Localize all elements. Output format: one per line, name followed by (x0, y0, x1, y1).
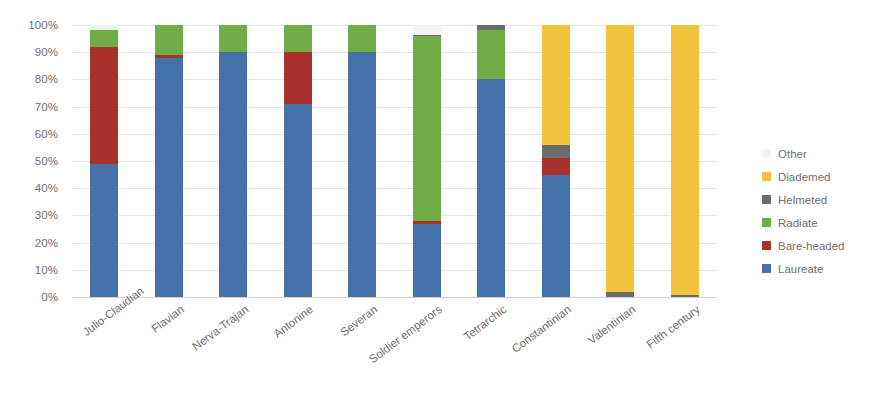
bar-segment[interactable] (155, 58, 183, 297)
bar-stack (155, 25, 183, 297)
legend-item[interactable]: Laureate (762, 257, 874, 280)
legend-label: Other (778, 148, 807, 160)
plot-area (72, 25, 717, 297)
bar-series-container (72, 25, 717, 297)
bar-segment[interactable] (90, 164, 118, 297)
bar-segment[interactable] (413, 221, 441, 224)
y-axis-tick-label: 80% (35, 73, 58, 85)
bar-column[interactable] (201, 25, 266, 297)
legend-swatch-icon (762, 218, 771, 227)
y-axis-tick-label: 50% (35, 155, 58, 167)
y-axis-tick-label: 70% (35, 101, 58, 113)
bar-segment[interactable] (413, 224, 441, 297)
x-axis: Julio-ClaudianFlavianNerva-TrajanAntonin… (72, 297, 717, 396)
bar-segment[interactable] (413, 36, 441, 221)
legend-label: Laureate (778, 263, 823, 275)
bar-segment[interactable] (155, 55, 183, 58)
legend-swatch-icon (762, 195, 771, 204)
bar-segment[interactable] (219, 52, 247, 297)
bar-segment[interactable] (542, 158, 570, 174)
bar-column[interactable] (330, 25, 395, 297)
bar-stack (284, 25, 312, 297)
stacked-bar-chart: 0%10%20%30%40%50%60%70%80%90%100% Julio-… (0, 0, 876, 396)
bar-column[interactable] (395, 25, 460, 297)
legend-label: Radiate (778, 217, 818, 229)
y-axis-tick-label: 100% (28, 19, 58, 31)
bar-segment[interactable] (477, 30, 505, 79)
bar-segment[interactable] (477, 79, 505, 297)
legend-swatch-icon (762, 149, 771, 158)
y-axis-tick-label: 10% (35, 264, 58, 276)
bar-segment[interactable] (348, 52, 376, 297)
y-axis-tick-label: 0% (41, 291, 58, 303)
legend-item[interactable]: Diademed (762, 165, 874, 188)
bar-column[interactable] (459, 25, 524, 297)
bar-segment[interactable] (90, 30, 118, 46)
bar-segment[interactable] (606, 25, 634, 292)
y-axis: 0%10%20%30%40%50%60%70%80%90%100% (0, 25, 66, 297)
y-axis-tick-label: 90% (35, 46, 58, 58)
bar-column[interactable] (137, 25, 202, 297)
bar-segment[interactable] (413, 35, 441, 36)
bar-column[interactable] (266, 25, 331, 297)
legend-label: Diademed (778, 171, 830, 183)
bar-stack (413, 25, 441, 297)
legend-item[interactable]: Other (762, 142, 874, 165)
bar-segment[interactable] (219, 25, 247, 52)
bar-column[interactable] (588, 25, 653, 297)
legend-item[interactable]: Helmeted (762, 188, 874, 211)
bar-stack (90, 25, 118, 297)
bar-segment[interactable] (284, 25, 312, 52)
bar-stack (219, 25, 247, 297)
bar-segment[interactable] (284, 52, 312, 104)
bar-segment[interactable] (477, 25, 505, 30)
bar-segment[interactable] (284, 104, 312, 297)
bar-segment[interactable] (348, 25, 376, 52)
legend-swatch-icon (762, 172, 771, 181)
y-axis-tick-label: 60% (35, 128, 58, 140)
legend-swatch-icon (762, 264, 771, 273)
bar-segment[interactable] (542, 175, 570, 297)
legend-item[interactable]: Radiate (762, 211, 874, 234)
legend-label: Bare-headed (778, 240, 845, 252)
bar-segment[interactable] (542, 145, 570, 159)
bar-stack (348, 25, 376, 297)
x-axis-tick-label: Julio-Claudian (81, 303, 122, 338)
bar-stack (542, 25, 570, 297)
bar-stack (477, 25, 505, 297)
legend-label: Helmeted (778, 194, 827, 206)
bar-stack (671, 25, 699, 297)
y-axis-tick-label: 40% (35, 182, 58, 194)
bar-column[interactable] (524, 25, 589, 297)
bar-segment[interactable] (542, 25, 570, 145)
bar-column[interactable] (72, 25, 137, 297)
bar-segment[interactable] (90, 25, 118, 30)
legend: OtherDiademedHelmetedRadiateBare-headedL… (762, 142, 874, 280)
bar-segment[interactable] (90, 47, 118, 164)
bar-column[interactable] (653, 25, 718, 297)
bar-segment[interactable] (155, 25, 183, 55)
bar-segment[interactable] (671, 25, 699, 295)
y-axis-tick-label: 30% (35, 209, 58, 221)
legend-swatch-icon (762, 241, 771, 250)
bar-stack (606, 25, 634, 297)
bar-segment[interactable] (413, 25, 441, 35)
y-axis-tick-label: 20% (35, 237, 58, 249)
legend-item[interactable]: Bare-headed (762, 234, 874, 257)
